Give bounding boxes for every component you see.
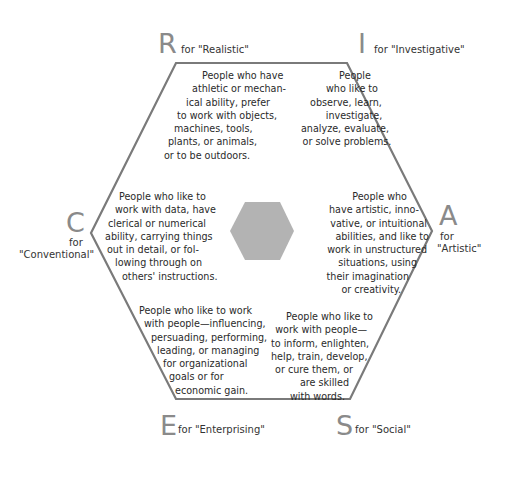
- label-conventional-for: for: [69, 237, 83, 249]
- letter-c: C: [66, 209, 85, 236]
- desc-artistic: People who have artistic, inno- vative, …: [323, 190, 429, 296]
- letter-e: E: [160, 412, 177, 439]
- label-conventional: "Conventional": [19, 249, 94, 261]
- label-investigative: for "Investigative": [374, 44, 465, 56]
- desc-conventional: People who like to work with data, have …: [105, 190, 217, 283]
- label-artistic: "Artistic": [437, 243, 481, 255]
- letter-r: R: [158, 30, 177, 57]
- letter-s: S: [336, 412, 353, 439]
- desc-enterprising: People who like to work with people—infl…: [139, 304, 267, 397]
- desc-social: People who like to work with people— to …: [271, 310, 373, 403]
- label-social: for "Social": [355, 424, 411, 436]
- letter-a: A: [439, 202, 457, 229]
- label-enterprising: for "Enterprising": [178, 424, 265, 436]
- label-realistic: for "Realistic": [181, 44, 249, 56]
- letter-i: I: [358, 30, 366, 57]
- label-artistic-for: for: [440, 231, 454, 243]
- center-hexagon: [230, 202, 294, 260]
- desc-realistic: People who have athletic or mechan- ical…: [172, 69, 286, 162]
- desc-investigative: People who like to observe, learn, inves…: [286, 69, 396, 149]
